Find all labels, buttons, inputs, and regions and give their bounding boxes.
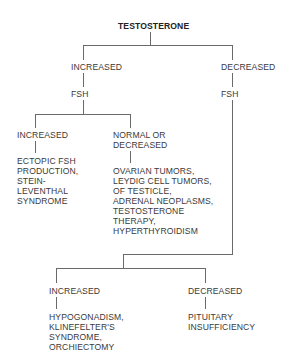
connector-fsh-left-split	[35, 114, 130, 115]
connector-fsh-left	[83, 100, 84, 114]
connector-fsh-normal	[130, 114, 131, 128]
result-ovarian-tumors: OVARIAN TUMORS, LEYDIG CELL TUMORS, OF T…	[113, 166, 213, 236]
connector-decreased	[232, 45, 233, 60]
connector-fsh-right-return	[123, 254, 233, 255]
connector-fsh-increased	[35, 114, 36, 128]
result-hypogonadism: HYPOGONADISM, KLINEFELTER'S SYNDROME, OR…	[49, 312, 124, 352]
result-ectopic-fsh: ECTOPIC FSH PRODUCTION, STEIN- LEVENTHAL…	[17, 156, 78, 206]
connector-fsh-right-drop	[123, 254, 124, 269]
connector-bottom-decreased-result	[205, 297, 206, 309]
connector-fsh-right	[232, 100, 233, 255]
connector-decreased-fsh	[232, 73, 233, 87]
node-fsh-increased-bottom: INCREASED	[49, 286, 100, 296]
connector-bottom-increased	[56, 268, 57, 283]
connector-fsh-right-split	[56, 268, 206, 269]
node-fsh-left: FSH	[71, 89, 89, 99]
connector-bottom-decreased	[205, 268, 206, 283]
connector-root-split	[83, 45, 233, 46]
node-fsh-right: FSH	[221, 89, 239, 99]
node-fsh-increased-left: INCREASED	[17, 130, 68, 140]
node-fsh-decreased-bottom: DECREASED	[188, 286, 242, 296]
connector-increased-fsh	[83, 73, 84, 87]
connector-fsh-increased-result	[35, 141, 36, 153]
node-fsh-normal-or-decreased: NORMAL OR DECREASED	[113, 130, 167, 150]
connector-bottom-increased-result	[56, 297, 57, 309]
connector-root	[150, 32, 151, 46]
root-node-testosterone: TESTOSTERONE	[118, 21, 189, 31]
node-testosterone-increased: INCREASED	[71, 62, 122, 72]
result-pituitary-insufficiency: PITUITARY INSUFFICIENCY	[188, 312, 255, 332]
connector-fsh-normal-result	[130, 151, 131, 163]
node-testosterone-decreased: DECREASED	[221, 62, 275, 72]
connector-increased	[83, 45, 84, 60]
